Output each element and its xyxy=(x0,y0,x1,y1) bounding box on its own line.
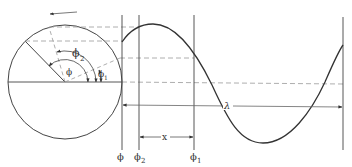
phasor-radius-phi1 xyxy=(65,58,120,82)
rotation-arrow-icon xyxy=(50,12,77,14)
axis-label-phi: ϕ xyxy=(117,151,124,162)
axis-label-phi1: ϕ xyxy=(190,151,197,162)
angle-label-phi1-sub: 1 xyxy=(104,74,108,81)
axis-label-phi2-sub: 2 xyxy=(141,157,145,165)
axis-label-phi1-sub: 1 xyxy=(197,157,201,165)
angle-label-phi2: ϕ xyxy=(72,47,80,60)
wave-zero-axis xyxy=(122,82,343,84)
angle-label-phi2-sub: 2 xyxy=(80,55,84,63)
wavelength-label: λ xyxy=(223,100,230,111)
axis-label-phi2: ϕ xyxy=(134,151,141,162)
angle-label-phi: ϕ xyxy=(66,67,72,77)
phase-wave-diagram: ϕ ϕ 2 ϕ 1 λ x ϕ ϕ 2 ϕ 1 xyxy=(0,0,352,167)
distance-x-label: x xyxy=(162,132,167,142)
